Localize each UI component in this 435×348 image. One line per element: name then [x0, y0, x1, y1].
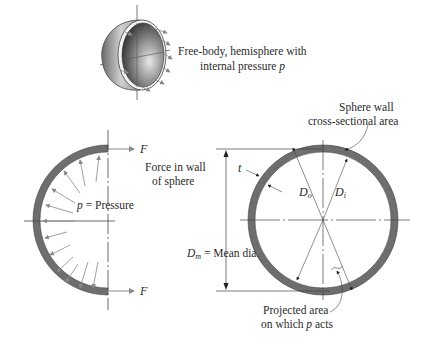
- projected-caption-line1: Projected area: [263, 304, 328, 317]
- hemisphere-illustration: [100, 5, 172, 100]
- hemisphere-caption-line1: Free-body, hemisphere with: [178, 45, 307, 58]
- sphere-section: [216, 125, 410, 312]
- inner-diameter-label: Di: [334, 185, 346, 200]
- force-caption-line2: of sphere: [152, 175, 194, 188]
- hemisphere-caption-line2: internal pressure p: [200, 60, 285, 73]
- thickness-label: t: [238, 161, 242, 175]
- wall-caption-line2: cross-sectional area: [308, 115, 398, 127]
- half-section-wall: [24, 130, 134, 310]
- force-caption-line1: Force in wall: [145, 161, 206, 173]
- wall-caption-line1: Sphere wall: [339, 101, 394, 114]
- pressure-label: p = Pressure: [76, 199, 134, 212]
- force-label-bottom: F: [139, 284, 148, 298]
- pressure-vessel-diagram: Free-body, hemisphere with internal pres…: [0, 0, 435, 348]
- mean-diameter-label: Dm = Mean dia.: [186, 247, 259, 261]
- force-label-top: F: [139, 142, 148, 156]
- projected-caption-line2: on which p acts: [261, 318, 333, 331]
